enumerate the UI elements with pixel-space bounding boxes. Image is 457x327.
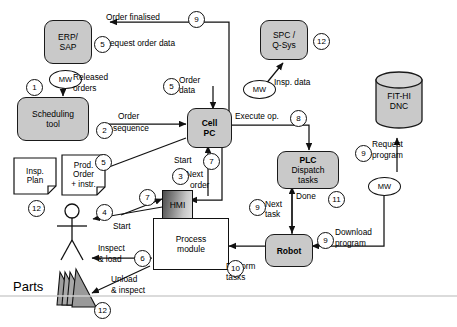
label-order-finalised: Order finalised bbox=[106, 13, 160, 23]
label-start-operator: Start bbox=[113, 222, 131, 232]
insp-plan-line1: Insp. bbox=[26, 167, 44, 177]
step-badge-4: 4 bbox=[96, 204, 113, 221]
step-badge-3: 3 bbox=[172, 168, 189, 185]
node-scheduling-tool[interactable]: Scheduling tool bbox=[17, 97, 89, 141]
step-badge-1: 1 bbox=[26, 79, 43, 96]
step-badge-5-prod-order: 5 bbox=[95, 154, 112, 171]
label-done: Done bbox=[296, 192, 316, 202]
node-spc-qsys[interactable]: SPC / Q-Sys bbox=[260, 20, 308, 60]
label-unload-1: Unload bbox=[111, 275, 137, 285]
erp-sap-line2: SAP bbox=[59, 42, 76, 52]
plc-line3: tasks bbox=[298, 175, 318, 185]
label-released-orders-2: orders bbox=[73, 84, 97, 94]
mw-erp-label: MW bbox=[59, 75, 73, 84]
step-badge-11: 11 bbox=[328, 191, 345, 208]
step-badge-9-request-program: 9 bbox=[355, 145, 372, 162]
label-order-data-2: data bbox=[179, 86, 195, 96]
label-insp-data: Insp. data bbox=[274, 78, 310, 88]
scheduling-line2: tool bbox=[46, 119, 60, 129]
robot-label: Robot bbox=[277, 246, 302, 256]
step-badge-12-parts: 12 bbox=[94, 302, 111, 319]
cell-pc-line2: PC bbox=[204, 128, 216, 138]
dnc-line2: DNC bbox=[390, 101, 408, 111]
doc-insp-plan[interactable]: Insp. Plan bbox=[14, 158, 56, 194]
process-line1: Process bbox=[176, 234, 207, 244]
node-fit-hi-dnc[interactable]: FIT-HI DNC bbox=[376, 86, 422, 116]
label-download-1: Download bbox=[335, 228, 372, 238]
insp-plan-line2: Plan bbox=[27, 176, 43, 186]
node-process-module[interactable]: Process module bbox=[153, 218, 229, 270]
mw-robot-label: MW bbox=[378, 182, 392, 191]
step-badge-2: 2 bbox=[96, 122, 113, 139]
step-badge-5-order-data: 5 bbox=[163, 78, 180, 95]
step-badge-7-cell: 7 bbox=[203, 153, 220, 170]
label-order-sequence-1: Order bbox=[118, 112, 139, 122]
scheduling-line1: Scheduling bbox=[32, 109, 74, 119]
label-inspect-load-2: & load bbox=[98, 255, 122, 265]
node-erp-sap[interactable]: ERP/ SAP bbox=[44, 20, 92, 64]
step-badge-7-hmi: 7 bbox=[139, 189, 156, 206]
prod-order-line1: Prod. bbox=[74, 161, 94, 171]
plc-line1: PLC bbox=[300, 155, 317, 165]
prod-order-line2: Order bbox=[73, 170, 94, 180]
label-next-order-2: order bbox=[190, 181, 209, 191]
mw-cell-label: MW bbox=[253, 85, 267, 94]
step-badge-9-order-finalised: 9 bbox=[188, 11, 205, 28]
node-hmi[interactable]: HMI bbox=[162, 190, 193, 219]
label-inspect-load-1: Inspect bbox=[98, 244, 125, 254]
hmi-label: HMI bbox=[170, 200, 186, 210]
label-released-orders-1: Released bbox=[73, 73, 108, 83]
spc-line2: Q-Sys bbox=[272, 40, 296, 50]
label-unload-2: & inspect bbox=[111, 286, 145, 296]
cell-pc-line1: Cell bbox=[202, 118, 218, 128]
step-badge-9-next-task: 9 bbox=[249, 199, 266, 216]
dnc-line1: FIT-HI bbox=[387, 91, 411, 101]
parts-label: Parts bbox=[13, 280, 43, 294]
step-badge-8: 8 bbox=[290, 110, 307, 127]
mw-cell-ellipse[interactable]: MW bbox=[243, 80, 276, 99]
node-cell-pc[interactable]: Cell PC bbox=[187, 108, 232, 148]
process-line2: module bbox=[177, 244, 205, 254]
label-next-task-2: task bbox=[265, 210, 280, 220]
label-request-program-2: program bbox=[372, 151, 403, 161]
node-plc[interactable]: PLC Dispatch tasks bbox=[277, 151, 339, 189]
label-start-cell-visible: Start bbox=[174, 156, 192, 166]
erp-sap-line1: ERP/ bbox=[58, 32, 78, 42]
step-badge-12-insp-plan: 12 bbox=[28, 200, 45, 217]
label-request-program-1: Request bbox=[372, 140, 403, 150]
spc-line1: SPC / bbox=[273, 30, 295, 40]
parts-stack bbox=[57, 269, 96, 307]
step-badge-9-download: 9 bbox=[317, 232, 334, 249]
plc-line2: Dispatch bbox=[291, 165, 324, 175]
mw-robot-ellipse[interactable]: MW bbox=[368, 177, 401, 196]
label-download-2: program bbox=[335, 239, 366, 249]
node-robot[interactable]: Robot bbox=[265, 234, 313, 267]
prod-order-line3: + instr. bbox=[71, 180, 95, 190]
step-badge-6: 6 bbox=[134, 250, 151, 267]
label-execute-op: Execute op. bbox=[235, 112, 279, 122]
step-badge-5-request: 5 bbox=[94, 36, 111, 53]
step-badge-10: 10 bbox=[227, 260, 244, 277]
step-badge-12-qsys: 12 bbox=[313, 33, 330, 50]
operator-figure bbox=[57, 204, 87, 260]
label-order-sequence-2: sequence bbox=[113, 124, 149, 134]
label-request-order-data: Request order data bbox=[104, 39, 175, 49]
diagram-canvas: ERP/ SAP MW Scheduling tool Cell PC SPC … bbox=[0, 0, 457, 327]
